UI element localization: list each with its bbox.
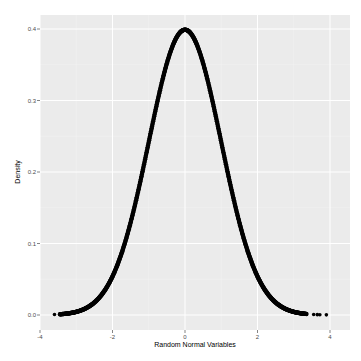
- y-tick-label: 0.1: [28, 241, 37, 247]
- x-tick-label: 0: [183, 334, 187, 340]
- y-axis-title: Density: [14, 160, 22, 184]
- x-tick-label: 4: [328, 334, 332, 340]
- y-tick-label: 0.4: [28, 26, 37, 32]
- x-axis-title: Random Normal Variables: [154, 341, 236, 348]
- y-axis-ticks: 0.00.10.20.30.4: [28, 26, 40, 318]
- y-tick-label: 0.0: [28, 312, 37, 318]
- x-axis-ticks: -4-2024: [37, 330, 332, 340]
- x-tick-label: -2: [110, 334, 116, 340]
- x-tick-label: 2: [256, 334, 260, 340]
- x-tick-label: -4: [37, 334, 43, 340]
- y-tick-label: 0.2: [28, 169, 37, 175]
- y-tick-label: 0.3: [28, 98, 37, 104]
- density-chart: -4-2024 0.00.10.20.30.4 Random Normal Va…: [0, 0, 361, 361]
